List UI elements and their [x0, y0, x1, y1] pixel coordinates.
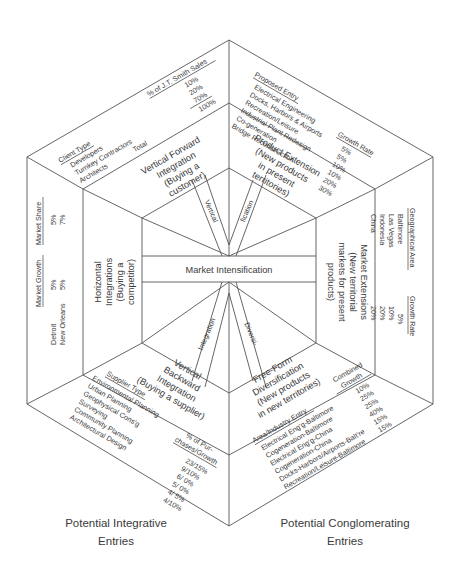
strategy-horizontal-integrations: Horizontal Integrations (Buying a compet…: [93, 258, 136, 306]
svg-text:Entries: Entries: [327, 535, 363, 547]
svg-text:competitor): competitor): [126, 259, 136, 305]
svg-text:20%: 20%: [378, 306, 387, 321]
svg-text:Potential Conglomerating: Potential Conglomerating: [280, 517, 409, 529]
svg-text:5%: 5%: [396, 314, 405, 325]
svg-text:China: China: [369, 214, 378, 233]
strategy-vertical-forward: Vertical Forward Integration (Buying a c…: [139, 135, 218, 205]
svg-text:Horizontal: Horizontal: [93, 261, 103, 302]
strategy-market-extensions: Market Extensions (New territorial marke…: [326, 242, 369, 322]
center-label: Market Intensification: [186, 265, 273, 275]
svg-text:New Orleans: New Orleans: [58, 303, 67, 345]
svg-text:5%: 5%: [58, 279, 67, 290]
svg-text:markets for present: markets for present: [337, 242, 347, 322]
header-geographical-area: Geographical Area: [408, 208, 417, 268]
caption-integrative-entries: Potential Integrative Entries: [65, 517, 167, 547]
svg-text:10%: 10%: [387, 306, 396, 321]
hexagon-diagram: Market Intensification Vertical fication…: [0, 0, 455, 576]
svg-text:Market Extensions: Market Extensions: [359, 244, 369, 320]
svg-text:products): products): [326, 263, 336, 301]
panel-market-growth-share: Detroit New Orleans Market Growth 5% 5% …: [34, 197, 67, 345]
svg-text:(New territorial: (New territorial: [348, 252, 358, 312]
svg-text:5%: 5%: [49, 279, 58, 290]
svg-text:(Buying a: (Buying a: [115, 262, 125, 302]
svg-text:Detroit: Detroit: [49, 324, 58, 345]
svg-text:5%: 5%: [49, 214, 58, 225]
svg-text:Baltimore: Baltimore: [396, 214, 405, 244]
spoke-label-diversi: Diversi-: [242, 321, 260, 347]
svg-text:Indonesia: Indonesia: [378, 214, 387, 245]
svg-text:7%: 7%: [58, 214, 67, 225]
header-market-growth: Market Growth: [34, 260, 43, 307]
panel-geographical-area: Geographical Area Baltimore Las Vegas In…: [369, 208, 417, 336]
strategy-free-form-diversification: Free-Form Diversification (New products …: [239, 348, 322, 420]
spoke-label-integration: Integration: [196, 317, 218, 352]
svg-text:Entries: Entries: [98, 535, 134, 547]
svg-text:Potential Integrative: Potential Integrative: [65, 517, 167, 529]
svg-text:20%: 20%: [369, 306, 378, 321]
caption-conglomerating-entries: Potential Conglomerating Entries: [280, 517, 409, 547]
panel-proposed-entry: Proposed Entry Electrical Engineering Do…: [220, 70, 381, 206]
svg-text:Integrations: Integrations: [104, 258, 114, 306]
header-growth-rate-geo: Growth Rate: [408, 296, 417, 336]
svg-text:Las Vegas: Las Vegas: [387, 214, 396, 248]
header-market-share: Market Share: [34, 202, 43, 245]
